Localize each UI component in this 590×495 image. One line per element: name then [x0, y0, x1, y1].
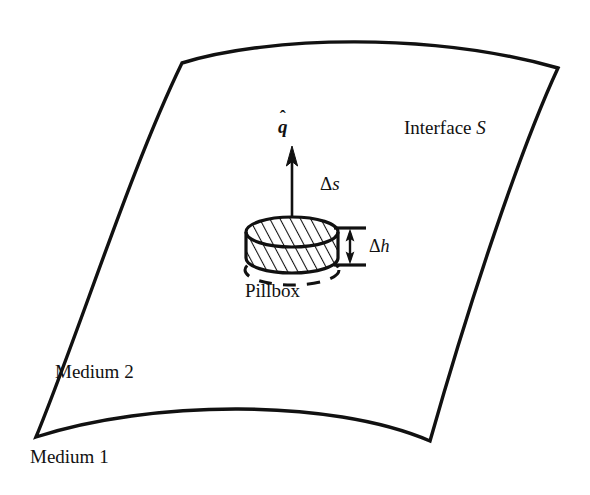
delta-h-label: Δh — [369, 237, 390, 255]
delta-s-label: Δs — [320, 174, 340, 193]
pillbox-label: Pillbox — [245, 281, 300, 300]
delta-s-symbol: s — [332, 173, 339, 194]
medium-2-label: Medium 2 — [55, 362, 134, 381]
medium-1-label: Medium 1 — [30, 447, 109, 466]
pillbox-interface-figure: ˆq Δs Δh Pillbox Interface S Medium 2 Me… — [0, 0, 590, 495]
figure-canvas — [0, 0, 590, 495]
delta-h-delta: Δ — [369, 236, 381, 256]
interface-label: Interface S — [404, 118, 486, 137]
interface-text: Interface — [404, 117, 476, 138]
q-hat-accent: ˆ — [280, 108, 286, 126]
delta-h-symbol: h — [381, 236, 390, 256]
delta-s-delta: Δ — [320, 173, 332, 194]
normal-vector-label: ˆq — [278, 117, 288, 136]
interface-symbol: S — [476, 117, 486, 138]
